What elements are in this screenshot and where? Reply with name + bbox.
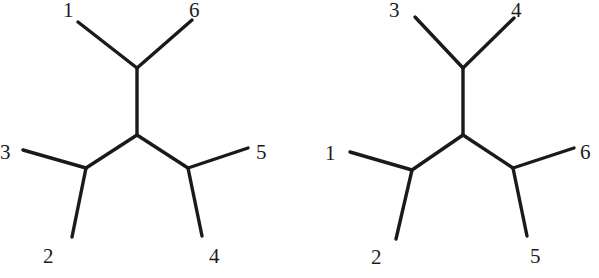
internal-edge-center-to-left <box>86 135 137 168</box>
leaf-label-6: 6 <box>189 0 200 21</box>
tree-edges-layer <box>23 17 574 239</box>
unrooted-tree-right <box>350 17 574 239</box>
leaf-label-2: 2 <box>371 247 382 268</box>
internal-edge-center-to-right <box>463 135 513 168</box>
leaf-edge-5 <box>513 168 527 236</box>
leaf-edge-1 <box>78 22 137 68</box>
leaf-label-1: 1 <box>63 0 74 21</box>
leaf-label-2: 2 <box>43 246 54 267</box>
leaf-label-6: 6 <box>580 142 591 163</box>
tree-diagram-canvas <box>0 0 599 278</box>
leaf-edge-3 <box>415 17 463 68</box>
phylogenetic-trees-figure: 163254341265 <box>0 0 599 278</box>
leaf-label-1: 1 <box>325 143 336 164</box>
leaf-label-4: 4 <box>511 0 522 21</box>
internal-edge-center-to-left <box>412 135 463 170</box>
leaf-label-5: 5 <box>530 246 541 267</box>
leaf-edge-4 <box>188 168 202 236</box>
leaf-edge-4 <box>463 18 514 68</box>
leaf-edge-2 <box>396 170 412 239</box>
unrooted-tree-left <box>23 20 248 237</box>
leaf-label-4: 4 <box>209 246 220 267</box>
leaf-label-3: 3 <box>389 0 400 21</box>
internal-edge-center-to-right <box>137 135 188 168</box>
leaf-edge-6 <box>513 148 574 168</box>
leaf-label-3: 3 <box>0 142 11 163</box>
leaf-label-5: 5 <box>256 142 267 163</box>
leaf-edge-2 <box>72 168 86 237</box>
leaf-edge-1 <box>350 152 412 170</box>
leaf-edge-5 <box>188 148 248 168</box>
leaf-edge-3 <box>23 150 86 168</box>
leaf-edge-6 <box>137 20 192 68</box>
